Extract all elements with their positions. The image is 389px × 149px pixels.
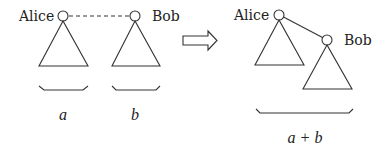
after-merged-tree: Alice Bob a + b <box>233 7 372 146</box>
bob-label-before: Bob <box>152 8 180 24</box>
brace-a <box>39 86 88 90</box>
brace-b <box>112 86 160 90</box>
alice-node-after <box>274 10 284 20</box>
bob-node-after <box>322 35 332 45</box>
brace-a-plus-b <box>256 109 353 113</box>
size-label-a-plus-b: a + b <box>288 129 323 146</box>
bob-subtree-triangle-after <box>303 45 352 89</box>
alice-subtree-triangle-after <box>255 20 304 65</box>
bob-node-before <box>130 11 140 21</box>
bob-label-after: Bob <box>344 32 372 48</box>
before-bob-tree: Bob b <box>112 8 180 123</box>
tree-union-diagram: Alice a Bob b Alice Bob a + b <box>0 0 389 149</box>
alice-label-before: Alice <box>18 8 54 24</box>
right-arrow-icon <box>183 31 217 50</box>
size-label-a: a <box>59 106 67 123</box>
alice-subtree-triangle <box>39 21 88 66</box>
bob-subtree-triangle <box>112 21 160 66</box>
size-label-b: b <box>131 106 139 123</box>
alice-node-before <box>58 11 68 21</box>
before-alice-tree: Alice a <box>18 8 88 123</box>
alice-label-after: Alice <box>233 7 269 23</box>
solid-link <box>284 17 323 38</box>
